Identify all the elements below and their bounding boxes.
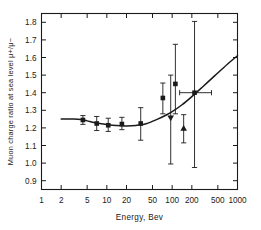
x-tick-label: 500 <box>211 196 225 205</box>
x-tick-label: 200 <box>185 196 199 205</box>
marker-square <box>120 122 125 127</box>
x-tick-label: 2 <box>59 196 64 205</box>
y-axis-title: Muon charge ratio at sea level μ+/μ− <box>6 38 15 165</box>
x-tick-label: 50 <box>148 196 158 205</box>
y-tick-label: 1.8 <box>25 18 37 27</box>
x-tick-label: 1 <box>39 196 44 205</box>
chart-figure: 0.91.01.11.21.31.41.51.61.71.8 125102050… <box>0 0 261 230</box>
marker-square <box>173 82 178 87</box>
marker-square <box>106 123 111 128</box>
y-tick-label: 1.1 <box>25 142 37 151</box>
x-tick-label: 20 <box>122 196 132 205</box>
y-tick-label: 1.4 <box>25 89 37 98</box>
x-tick-label: 1000 <box>228 196 247 205</box>
marker-square <box>161 96 166 101</box>
y-axis-tick-labels: 0.91.01.11.21.31.41.51.61.71.8 <box>25 18 37 185</box>
x-tick-label: 10 <box>102 196 112 205</box>
marker-square <box>192 90 197 95</box>
y-tick-label: 1.5 <box>25 71 37 80</box>
x-axis-ticks <box>42 14 238 190</box>
x-axis-tick-labels: 1251020501002005001000 <box>39 196 247 205</box>
plot-canvas: 0.91.01.11.21.31.41.51.61.71.8 125102050… <box>0 0 261 230</box>
y-tick-label: 1.0 <box>25 159 37 168</box>
x-tick-label: 5 <box>85 196 90 205</box>
y-tick-label: 0.9 <box>25 177 37 186</box>
fit-curve-path <box>61 56 237 126</box>
marker-triangle-up <box>180 125 187 131</box>
marker-square <box>94 121 99 126</box>
fit-curve <box>61 56 237 126</box>
y-axis-ticks <box>42 22 238 180</box>
marker-square <box>138 121 143 126</box>
plot-frame <box>42 14 238 190</box>
axes-box <box>42 14 238 190</box>
y-tick-label: 1.2 <box>25 124 37 133</box>
x-axis-title: Energy, Bev <box>116 213 164 222</box>
y-tick-label: 1.3 <box>25 106 37 115</box>
x-tick-label: 100 <box>165 196 179 205</box>
error-bars <box>80 21 211 167</box>
marker-square <box>81 118 86 123</box>
y-tick-label: 1.7 <box>25 36 37 45</box>
y-tick-label: 1.6 <box>25 54 37 63</box>
marker-triangle-down <box>167 115 174 121</box>
